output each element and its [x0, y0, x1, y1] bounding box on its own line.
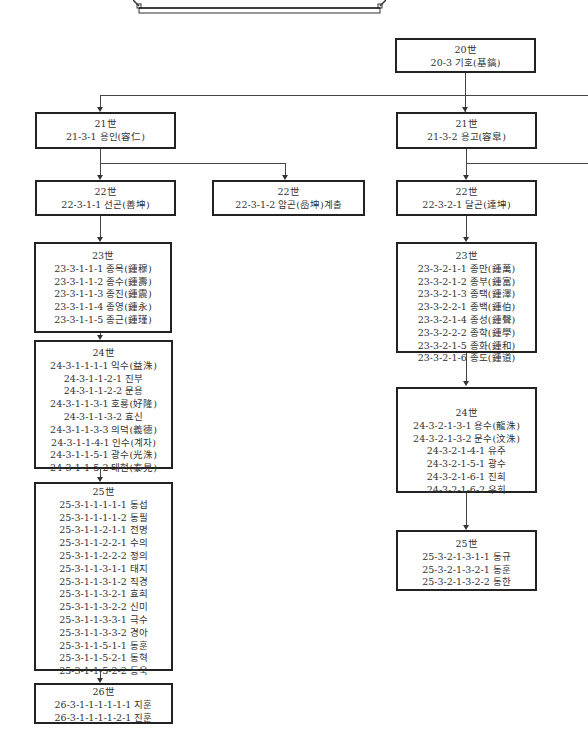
member-entry: 25-3-2-1-3-2-1 동훈	[398, 564, 535, 577]
node-gen22-mid: 22世 22-3-1-2 암곤(嵒坤)계출	[212, 180, 365, 216]
generation-label: 25世	[36, 486, 171, 499]
member-entry: 23-3-1-1-3 종진(鍾震)	[36, 288, 170, 301]
generation-label: 20世	[397, 44, 534, 57]
member-entry: 24-3-1-1-4-1 인수(계자)	[36, 437, 171, 450]
member-entry: 23-3-1-1-2 종수(鍾壽)	[36, 276, 170, 289]
member-entry: 24-3-1-1-3-2 효신	[36, 411, 171, 424]
member-entry: 23-3-2-1-1 종만(鍾萬)	[398, 263, 535, 276]
member-entry: 25-3-1-1-5-2-1 동혁	[36, 652, 171, 665]
node-gen22-right: 22世 22-3-2-1 달곤(達坤)	[396, 180, 537, 216]
member-entry: 25-3-1-1-1-1-2 동필	[36, 512, 171, 525]
member-entry: 21-3-1 용인(容仁)	[37, 131, 174, 144]
member-entry: 25-3-1-1-3-2-2 신미	[36, 601, 171, 614]
member-entry: 20-3 기호(基鎬)	[397, 57, 534, 70]
member-entry: 24-3-2-1-6-1 진희	[398, 471, 535, 484]
member-entry: 24-3-1-1-2-1 진부	[36, 373, 171, 386]
generation-label: 26世	[36, 686, 171, 699]
generation-label: 22世	[398, 186, 535, 199]
member-entry: 23-3-2-1-2 종부(鍾富)	[398, 276, 535, 289]
connector-22-right-down	[466, 215, 467, 237]
node-gen25-left: 25世 25-3-1-1-1-1-1 동섭 25-3-1-1-1-1-2 동필 …	[34, 482, 173, 671]
generation-label: 22世	[214, 186, 363, 199]
member-entry: 24-3-1-1-5-2 태현(泰見)	[36, 462, 171, 475]
member-entry: 25-3-1-1-2-2-1 수의	[36, 537, 171, 550]
generation-label: 24世	[398, 407, 535, 420]
connector-22-left-branch	[100, 163, 286, 164]
member-entry: 22-3-1-1 선곤(善坤)	[37, 199, 174, 212]
member-entry: 25-3-2-1-3-1-1 동규	[398, 551, 535, 564]
node-gen20: 20世 20-3 기호(基鎬)	[395, 38, 536, 73]
member-entry: 24-3-1-1-3-3 의덕(義德)	[36, 424, 171, 437]
member-entry: 25-3-1-1-5-2-2 동욱	[36, 665, 171, 678]
member-entry: 23-3-1-1-5 종근(鍾瑾)	[36, 314, 170, 327]
connector-24-right-down	[466, 492, 467, 526]
member-entry: 26-3-1-1-1-1-1-1 지훈	[36, 699, 171, 712]
member-entry: 24-3-1-1-5-1 광수(光洙)	[36, 449, 171, 462]
member-entry: 24-3-2-1-3-2 문수(汶洙)	[398, 433, 535, 446]
generation-label: 24世	[36, 347, 171, 360]
connector-22-right-branch	[466, 163, 588, 164]
member-entry: 25-3-1-1-3-3-1 극수	[36, 614, 171, 627]
generation-label: 25世	[398, 538, 535, 551]
node-gen26-left: 26世 26-3-1-1-1-1-1-1 지훈 26-3-1-1-1-1-2-1…	[34, 683, 173, 724]
connector-20-down	[465, 72, 466, 112]
member-entry: 24-3-1-1-3-1 호룡(好隆)	[36, 398, 171, 411]
member-entry: 24-3-2-1-3-1 용수(龍洙)	[398, 420, 535, 433]
member-entry: 23-3-2-1-4 종성(鍾聲)	[398, 314, 535, 327]
node-gen23-left: 23世 23-3-1-1-1 종목(鍾穆) 23-3-1-1-2 종수(鍾壽) …	[34, 242, 172, 333]
node-gen21-left: 21世 21-3-1 용인(容仁)	[35, 112, 176, 149]
member-entry: 25-3-1-1-5-1-1 동훈	[36, 640, 171, 653]
member-entry: 25-3-1-1-3-1-1 태지	[36, 563, 171, 576]
generation-label: 21世	[37, 118, 174, 131]
member-entry: 23-3-2-1-5 종화(鍾和)	[398, 340, 535, 353]
connector-22-left-down	[100, 215, 101, 237]
generation-label: 22世	[37, 186, 174, 199]
member-entry: 25-3-1-1-1-1-1 동섭	[36, 499, 171, 512]
member-entry: 22-3-1-2 암곤(嵒坤)계출	[214, 199, 363, 212]
member-entry: 23-3-2-1-6 종도(鍾道)	[398, 352, 535, 365]
member-entry: 24-3-2-1-6-2 우희	[398, 484, 535, 497]
generation-label: 23世	[36, 250, 170, 263]
connector-21-branch	[100, 95, 588, 96]
member-entry: 23-3-1-1-4 종영(鍾永)	[36, 301, 170, 314]
member-entry: 24-3-2-1-5-1 광수	[398, 458, 535, 471]
member-entry: 25-3-1-1-3-2-1 효희	[36, 588, 171, 601]
member-entry: 22-3-2-1 달곤(達坤)	[398, 199, 535, 212]
node-gen25-right: 25世 25-3-2-1-3-1-1 동규 25-3-2-1-3-2-1 동훈 …	[396, 530, 537, 591]
member-entry: 25-3-1-1-3-3-2 경아	[36, 627, 171, 640]
node-gen24-left: 24世 24-3-1-1-1-1 익수(益洙) 24-3-1-1-2-1 진부 …	[34, 340, 173, 469]
node-gen23-right: 23世 23-3-2-1-1 종만(鍾萬) 23-3-2-1-2 종부(鍾富) …	[396, 242, 537, 353]
member-entry: 23-3-2-2-1 종백(鍾伯)	[398, 301, 535, 314]
member-entry: 23-3-2-2-2 종학(鍾學)	[398, 327, 535, 340]
member-entry: 25-3-1-1-2-1-1 전명	[36, 524, 171, 537]
arrow-icon	[463, 381, 469, 386]
member-entry: 21-3-2 용고(容皐)	[398, 131, 535, 144]
node-gen22-left: 22世 22-3-1-1 선곤(善坤)	[35, 180, 176, 216]
node-gen24-right: 24世 24-3-2-1-3-1 용수(龍洙) 24-3-2-1-3-2 문수(…	[396, 387, 537, 493]
member-entry: 25-3-2-1-3-2-2 동한	[398, 576, 535, 589]
member-entry: 24-3-1-1-2-2 문용	[36, 385, 171, 398]
generation-label: 23世	[398, 250, 535, 263]
member-entry: 25-3-1-1-2-2-2 정의	[36, 550, 171, 563]
title-banner-frame	[133, 0, 386, 14]
member-entry: 26-3-1-1-1-1-2-1 진훈	[36, 712, 171, 725]
member-entry: 24-3-1-1-1-1 익수(益洙)	[36, 360, 171, 373]
member-entry: 24-3-2-1-4-1 유주	[398, 445, 535, 458]
generation-label: 21世	[398, 118, 535, 131]
node-gen21-right: 21世 21-3-2 용고(容皐)	[396, 112, 537, 149]
member-entry: 23-3-1-1-1 종목(鍾穆)	[36, 263, 170, 276]
member-entry: 23-3-2-1-3 종택(鍾澤)	[398, 288, 535, 301]
member-entry: 25-3-1-1-3-1-2 직경	[36, 576, 171, 589]
